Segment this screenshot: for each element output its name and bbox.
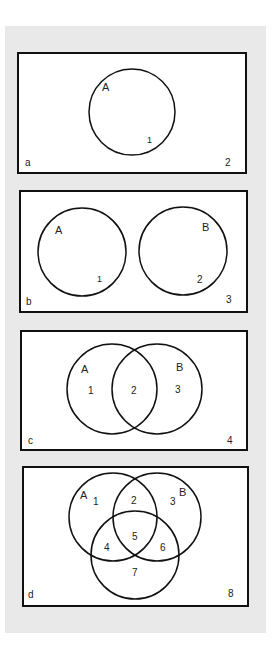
region-1: 1	[93, 497, 99, 507]
panel-label-d: d	[28, 590, 34, 600]
venn-panel-d-circles	[0, 0, 274, 656]
region-7: 7	[132, 568, 138, 578]
set-label-b: B	[179, 487, 186, 498]
region-2: 2	[131, 496, 137, 506]
region-6: 6	[160, 543, 166, 553]
region-5: 5	[132, 532, 138, 542]
region-3: 3	[170, 497, 176, 507]
set-label-a: A	[80, 490, 87, 501]
region-4: 4	[104, 543, 110, 553]
region-8: 8	[228, 589, 234, 599]
